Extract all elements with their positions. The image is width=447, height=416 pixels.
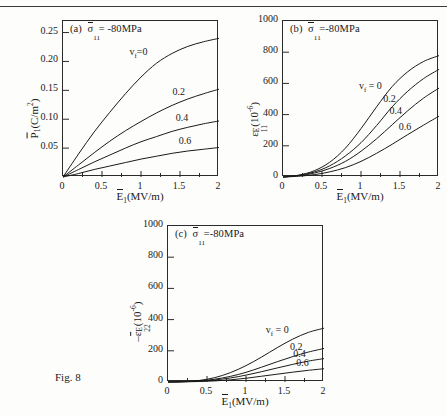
ytick-0.15: 0.15 — [16, 82, 58, 93]
panel-a-curves — [63, 21, 219, 177]
ytick-600: 600 — [121, 280, 163, 291]
panel-c-ylabel: –ε22E (10-6) — [129, 262, 143, 342]
xtick-0.5: 0.5 — [87, 180, 115, 191]
curve-label-vf-0: vf = 0 — [359, 80, 382, 93]
ytick-0.10: 0.10 — [16, 111, 58, 122]
xtick-0: 0 — [268, 180, 296, 191]
ytick-1000: 1000 — [121, 218, 163, 229]
panel-c-xlabel: E1(MV/m) — [205, 395, 285, 410]
xtick-2: 2 — [424, 180, 447, 191]
curve-label-vf-0.6: 0.6 — [179, 135, 192, 146]
ytick-0: 0 — [121, 374, 163, 385]
curve-label-vf-0.6: 0.6 — [296, 357, 309, 368]
ytick-0.20: 0.20 — [16, 53, 58, 64]
xtick-1.5: 1.5 — [165, 180, 193, 191]
panel-b-curves — [283, 21, 439, 177]
curve-label-vf-0.2: 0.2 — [383, 93, 396, 104]
panel-b-plot-box — [282, 20, 438, 176]
figure-caption: Fig. 8 — [55, 371, 81, 383]
curve-label-vf-0.6: 0.6 — [399, 121, 412, 132]
ytick-800: 800 — [121, 249, 163, 260]
ytick-200: 200 — [236, 138, 278, 149]
panel-b-title: (b) σ11 =-80MPa — [290, 23, 360, 34]
xtick-1.5: 1.5 — [270, 385, 298, 396]
ytick-0.25: 0.25 — [16, 25, 58, 36]
panel-a-stress-value: = -80MPa — [99, 23, 142, 34]
ytick-0.05: 0.05 — [16, 140, 58, 151]
panel-b-stress-value: =-80MPa — [319, 23, 359, 34]
ytick-400: 400 — [236, 107, 278, 118]
panel-a-title: (a) σ11 = -80MPa — [70, 23, 142, 34]
panel-c-title: (c) σ11 =-80MPa — [175, 228, 244, 239]
xtick-0.5: 0.5 — [192, 385, 220, 396]
ytick-400: 400 — [121, 312, 163, 323]
ytick-800: 800 — [236, 44, 278, 55]
panel-a-xlabel: E1(MV/m) — [100, 190, 180, 205]
panel-b-xlabel: E1(MV/m) — [320, 190, 400, 205]
figure-page: (a) σ11 = -80MPa P1(C/m2) E1(MV/m) vf=00… — [0, 0, 447, 416]
ytick-1000: 1000 — [236, 13, 278, 24]
xtick-1: 1 — [231, 385, 259, 396]
panel-a: (a) σ11 = -80MPa P1(C/m2) E1(MV/m) vf=00… — [0, 0, 230, 210]
ytick-0: 0 — [236, 169, 278, 180]
panel-b: (b) σ11 =-80MPa ε11E (10-6) E1(MV/m) vf … — [225, 0, 447, 210]
xtick-1: 1 — [126, 180, 154, 191]
ytick-600: 600 — [236, 75, 278, 86]
xtick-2: 2 — [309, 385, 337, 396]
xtick-0.5: 0.5 — [307, 180, 335, 191]
panel-c-stress-value: =-80MPa — [204, 228, 244, 239]
panel-c-label: (c) — [175, 228, 187, 239]
panel-a-label: (a) — [70, 23, 82, 34]
panel-a-plot-box — [62, 20, 218, 176]
curve-label-vf-0.2: 0.2 — [173, 86, 186, 97]
curve-label-vf-0.4: 0.4 — [176, 112, 189, 123]
panel-b-ylabel: ε11E (10-6) — [246, 57, 260, 137]
curve-label-vf-0: vf = 0 — [266, 324, 289, 337]
ytick-200: 200 — [121, 343, 163, 354]
curve-label-vf-0.4: 0.4 — [389, 105, 402, 116]
panel-c: (c) σ11 =-80MPa –ε22E (10-6) E1(MV/m) vf… — [110, 205, 332, 416]
xtick-1: 1 — [346, 180, 374, 191]
curve-label-vf-0: vf=0 — [130, 46, 148, 59]
panel-b-label: (b) — [290, 23, 303, 34]
xtick-0: 0 — [48, 180, 76, 191]
xtick-0: 0 — [153, 385, 181, 396]
xtick-1.5: 1.5 — [385, 180, 413, 191]
panel-a-ylabel: P1(C/m2) — [26, 58, 43, 138]
